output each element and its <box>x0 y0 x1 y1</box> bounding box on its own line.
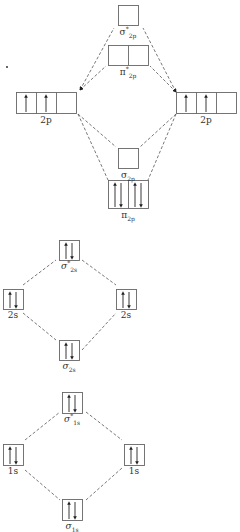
connector-line <box>150 66 176 92</box>
connector-line <box>25 412 60 440</box>
atomic-right-1s-box <box>125 445 145 466</box>
connector-line <box>86 468 122 500</box>
connector-line <box>140 114 176 147</box>
connector-line <box>23 260 56 285</box>
label-sigma-star-2s: σ*2s <box>61 262 77 271</box>
connector-line <box>86 412 122 440</box>
connector-line <box>78 114 116 147</box>
atomic-left-2s-box <box>4 290 24 310</box>
connector-line <box>143 28 176 92</box>
label-left-2p: 2p <box>40 116 52 125</box>
label-right-2p: 2p <box>200 116 212 125</box>
sigma-1s-box <box>63 500 83 521</box>
label-sigma-star-1s: σ*1s <box>64 415 80 424</box>
stray-dot <box>6 66 8 68</box>
label-left-1s: 1s <box>8 467 18 476</box>
sigma-star-2s-box <box>60 241 80 261</box>
pi-star-2p-box <box>109 46 149 66</box>
atomic-right-2p-box <box>177 93 237 114</box>
label-sigma-star-2p: σ*2p <box>120 28 137 37</box>
pi-2p-box <box>109 181 149 209</box>
sigma-2s-box <box>60 341 80 361</box>
connector-line <box>82 313 116 350</box>
sigma-star-1s-box <box>63 393 83 414</box>
mo-diagram <box>0 0 240 532</box>
label-right-1s: 1s <box>129 467 139 476</box>
label-sigma-2p: σ2p <box>121 171 135 180</box>
label-sigma-1s: σ1s <box>65 522 78 531</box>
orbital-boxes <box>4 6 237 521</box>
connector-line <box>78 114 108 180</box>
label-pi-2p: π2p <box>121 211 135 220</box>
atomic-left-2p-box <box>17 93 77 114</box>
label-left-2s: 2s <box>8 311 18 320</box>
atomic-left-1s-box <box>4 445 24 466</box>
sigma-star-2p-box <box>119 6 139 26</box>
sigma-2p-box <box>119 149 139 169</box>
label-sigma-2s: σ2s <box>62 362 75 371</box>
label-pi-star-2p: π*2p <box>120 68 137 77</box>
connector-line <box>148 114 176 180</box>
connector-line <box>80 66 106 90</box>
connector-line <box>23 313 56 340</box>
atomic-right-2s-box <box>117 290 137 310</box>
connector-line <box>25 470 60 500</box>
label-right-2s: 2s <box>121 311 131 320</box>
connector-line <box>82 260 116 285</box>
